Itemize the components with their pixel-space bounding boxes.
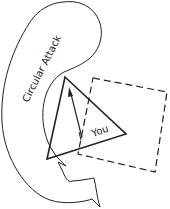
- player-triangle-icon: [47, 77, 126, 159]
- facing-arrow-shaft: [71, 94, 82, 138]
- player-label: You: [89, 123, 110, 140]
- circular-attack-diagram: Circular Attack You: [0, 0, 170, 209]
- circular-attack-arrow-icon: [2, 2, 102, 207]
- facing-arrow-head-icon: [68, 87, 73, 97]
- zone-dashed-square: [78, 78, 167, 172]
